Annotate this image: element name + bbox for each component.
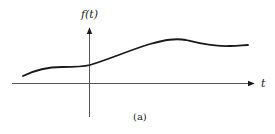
signal-curve bbox=[23, 39, 248, 76]
y-axis-label: f(t) bbox=[80, 8, 98, 21]
signal-diagram: f(t) t (a) bbox=[0, 0, 275, 134]
figure-caption: (a) bbox=[133, 111, 147, 122]
x-axis-label: t bbox=[261, 77, 266, 90]
